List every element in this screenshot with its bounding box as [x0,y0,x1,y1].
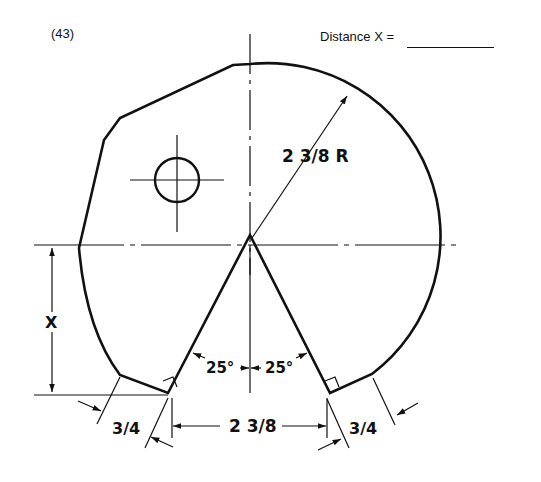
angle-left-label: 25° [206,359,234,377]
centerlines [34,34,458,275]
radius-leader [252,96,347,238]
part-outline [79,63,441,393]
radius-label: 2 3/8 R [282,146,349,166]
offset-left-label: 3/4 [112,419,140,438]
right-angle-marks [163,377,339,387]
offset-right-dimension [318,378,418,450]
x-label: X [45,313,58,332]
angle-right-label: 25° [265,359,293,377]
width-label: 2 3/8 [229,416,277,436]
offset-right-label: 3/4 [349,419,377,438]
technical-drawing: 2 3/8 R X 25° 25° 2 3/8 3/4 3/4 [0,0,541,482]
